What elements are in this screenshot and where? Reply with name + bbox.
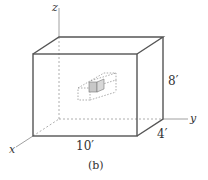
front-face: [33, 54, 137, 136]
length-label: 10′: [76, 140, 94, 152]
figure-caption: (b): [88, 160, 104, 171]
x-axis-label: x: [9, 144, 15, 155]
box-drawing: [0, 0, 208, 180]
y-axis-label: y: [190, 113, 196, 124]
height-label: 8′: [168, 75, 178, 87]
shaded-cube: [89, 82, 97, 92]
hidden-edge-depth: [33, 119, 59, 136]
x-axis: [16, 136, 33, 147]
z-axis-label: z: [52, 2, 58, 13]
box-diagram: z y x 8′ 10′ 4′ (b): [0, 0, 208, 180]
top-face: [33, 37, 163, 54]
depth-label: 4′: [157, 128, 167, 140]
